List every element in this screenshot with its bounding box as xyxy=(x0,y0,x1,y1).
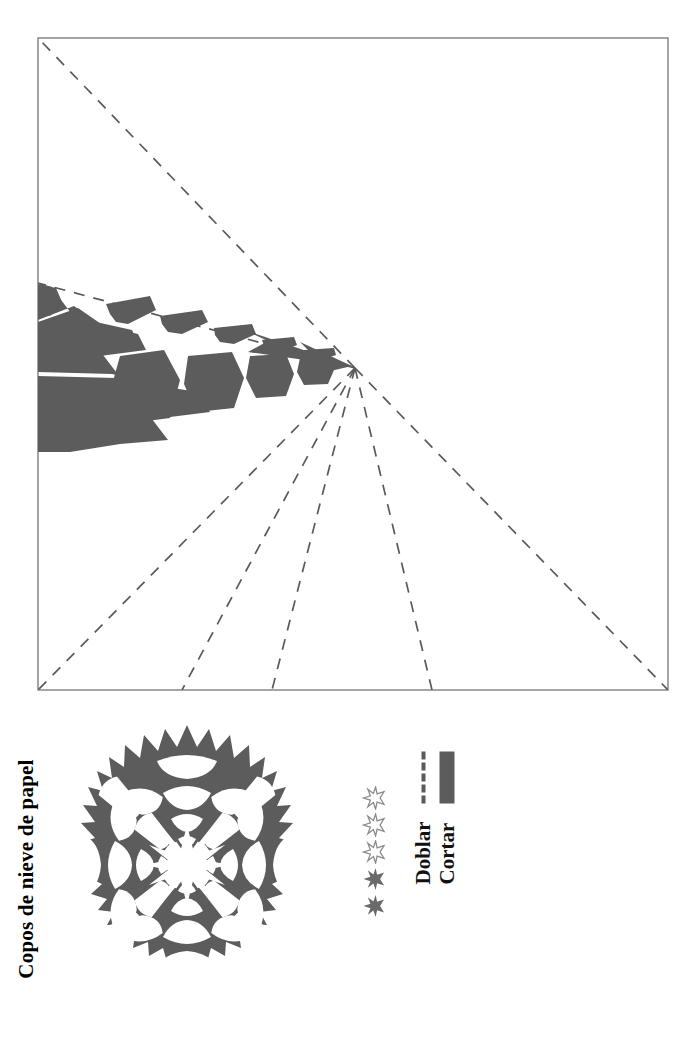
difficulty-rating xyxy=(352,782,396,922)
star-filled-1 xyxy=(362,894,386,918)
star-outline-5 xyxy=(362,786,386,810)
cut-shape-block-3 xyxy=(246,354,294,398)
snowflake-cutouts xyxy=(77,755,297,975)
star-filled-2 xyxy=(362,867,386,891)
template-panel xyxy=(0,0,695,700)
snowflake-illustration xyxy=(72,720,302,1010)
cut-shape-block-2 xyxy=(184,352,244,412)
star-outline-3 xyxy=(362,840,386,864)
cut-shape-block-1 xyxy=(110,350,180,424)
cut-fill-swatch xyxy=(440,752,455,804)
star-outline-4 xyxy=(362,813,386,837)
legend-item-cut: Cortar xyxy=(437,752,458,885)
page-title-wrap: Copos de nieve de papel xyxy=(0,704,54,1034)
legend-item-fold: Doblar xyxy=(413,752,434,885)
legend: Doblar Cortar xyxy=(392,698,478,938)
fold-line-swatch xyxy=(421,752,425,804)
legend-label-fold: Doblar xyxy=(413,813,434,885)
page-title: Copos de nieve de papel xyxy=(14,759,39,978)
legend-label-cut: Cortar xyxy=(437,813,458,885)
fold-and-cut-template xyxy=(0,0,695,700)
instructions-panel: Copos de nieve de papel xyxy=(0,694,695,1048)
